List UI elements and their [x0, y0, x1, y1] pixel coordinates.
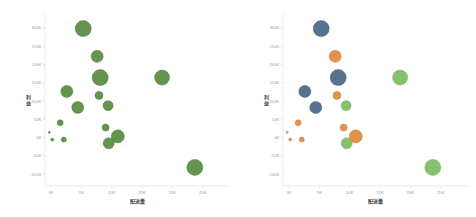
bubble[interactable] [310, 101, 322, 113]
y-tick-label: 300K [269, 25, 279, 30]
bubble[interactable] [155, 70, 170, 85]
bubble[interactable] [95, 91, 103, 99]
x-tick-label: 15K [376, 190, 384, 195]
x-axis-title: 配送量 [130, 198, 145, 205]
y-tick-label: 100K [31, 99, 41, 104]
bubble[interactable] [61, 85, 73, 97]
y-tick-label: 300K [31, 25, 41, 30]
x-tick-label: 0K [286, 190, 291, 195]
y-tick-label: 150K [31, 80, 41, 85]
y-tick-label: 100K [269, 99, 279, 104]
y-tick-label: 250K [269, 44, 279, 49]
bubble[interactable] [393, 70, 408, 85]
y-tick-label: 250K [31, 44, 41, 49]
bubble[interactable] [299, 137, 304, 142]
bubble-chart-left-panel: -100K-50K0K50K100K150K200K250K300K0K5K10… [0, 0, 238, 217]
x-axis-title: 配送量 [368, 198, 383, 205]
x-tick-label: 10K [346, 190, 354, 195]
bubble[interactable] [313, 21, 329, 37]
bubble[interactable] [61, 137, 66, 142]
y-tick-label: 200K [31, 62, 41, 67]
bubble-chart-right[interactable]: -100K-50K0K50K100K150K200K250K300K0K5K10… [238, 0, 476, 217]
bubble[interactable] [57, 120, 63, 126]
y-tick-label: 200K [269, 62, 279, 67]
y-axis-title: 益 [26, 100, 31, 107]
y-tick-label: 0K [36, 135, 41, 140]
page: -100K-50K0K50K100K150K200K250K300K0K5K10… [0, 0, 476, 217]
x-tick-label: 10K [108, 190, 116, 195]
bubble[interactable] [103, 101, 113, 111]
bubble[interactable] [51, 138, 54, 141]
bubble-chart-right-panel: -100K-50K0K50K100K150K200K250K300K0K5K10… [238, 0, 476, 217]
bubble[interactable] [333, 91, 341, 99]
bubble[interactable] [299, 85, 311, 97]
y-tick-label: 50K [272, 117, 280, 122]
x-tick-label: 25K [437, 190, 445, 195]
y-tick-label: -50K [32, 153, 41, 158]
x-tick-label: 0K [48, 190, 53, 195]
bubble[interactable] [91, 50, 103, 62]
bubble[interactable] [425, 159, 441, 175]
bubble[interactable] [349, 130, 362, 143]
x-tick-label: 5K [317, 190, 322, 195]
x-tick-label: 20K [407, 190, 415, 195]
bubble[interactable] [187, 159, 203, 175]
bubble[interactable] [72, 101, 84, 113]
y-axis-title: 益 [264, 100, 269, 107]
bubble[interactable] [330, 70, 346, 86]
bubble[interactable] [329, 50, 341, 62]
bubble[interactable] [92, 70, 108, 86]
bubble[interactable] [75, 21, 91, 37]
bubble[interactable] [111, 130, 124, 143]
x-tick-label: 20K [169, 190, 177, 195]
y-tick-label: -50K [270, 153, 279, 158]
bubble[interactable] [341, 101, 351, 111]
bubble[interactable] [340, 124, 347, 131]
y-tick-label: -100K [30, 172, 42, 177]
x-tick-label: 5K [79, 190, 84, 195]
bubble[interactable] [286, 131, 288, 133]
y-tick-label: -100K [268, 172, 280, 177]
bubble[interactable] [289, 138, 292, 141]
x-tick-label: 25K [199, 190, 207, 195]
bubble[interactable] [48, 131, 50, 133]
y-tick-label: 50K [34, 117, 42, 122]
bubble[interactable] [295, 120, 301, 126]
bubble-chart-left[interactable]: -100K-50K0K50K100K150K200K250K300K0K5K10… [0, 0, 238, 217]
y-tick-label: 150K [269, 80, 279, 85]
y-tick-label: 0K [274, 135, 279, 140]
x-tick-label: 15K [138, 190, 146, 195]
bubble[interactable] [102, 124, 109, 131]
